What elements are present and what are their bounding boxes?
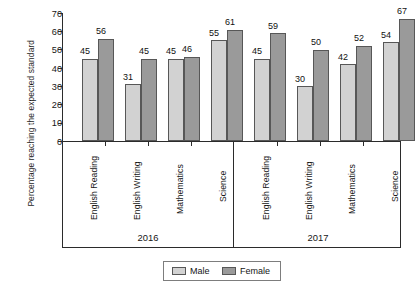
bar-2016-mathematics-male [168,59,184,141]
bar-2016-english-writing-male [125,84,141,141]
value-label-2017-science-male: 54 [373,31,399,40]
legend: Male Female [163,261,281,281]
category-label-2017-english-reading: English Reading [261,156,271,220]
bar-2016-english-reading-male [82,59,98,141]
value-label-2017-science-female: 67 [389,7,415,16]
bar-2016-science-male [211,40,227,141]
bar-2017-science-male [383,42,399,141]
bar-2016-english-reading-female [98,39,114,141]
legend-label-male: Male [190,266,210,276]
bar-2017-mathematics-female [356,46,372,141]
value-label-2017-english-writing-male: 30 [287,75,313,84]
value-label-2016-english-reading-female: 56 [88,27,114,36]
y-tick-60: 60 [36,27,62,37]
y-axis-title: Percentage reaching the expected standar… [26,18,37,228]
category-label-2016-science: Science [218,171,228,202]
legend-swatch-female-icon [222,267,236,275]
category-label-2017-english-writing: English Writing [304,161,314,220]
bar-2016-science-female [227,30,243,142]
value-label-2016-english-writing-female: 45 [131,47,157,56]
value-label-2017-english-reading-male: 45 [244,47,270,56]
y-tick-0: 0 [36,137,62,147]
group-divider [233,142,234,247]
y-tick-40: 40 [36,64,62,74]
value-label-2017-english-writing-female: 50 [303,38,329,47]
bar-2017-english-reading-female [270,33,286,141]
legend-item-male: Male [172,266,210,276]
bar-2016-english-writing-female [141,59,157,141]
legend-swatch-male-icon [172,267,186,275]
y-axis-tick-labels: 70 60 50 40 30 20 10 0 [36,0,62,291]
category-label-2016-english-reading: English Reading [89,156,99,220]
category-tick-4 [277,142,278,146]
value-label-2016-science-female: 61 [217,18,243,27]
category-tick-1 [148,142,149,146]
category-tick-0 [105,142,106,146]
y-tick-70: 70 [36,9,62,19]
plot-area: 45 56 31 45 45 46 55 61 45 59 30 50 42 5… [62,13,401,141]
value-label-2016-mathematics-female: 46 [174,45,200,54]
value-label-2016-science-male: 55 [201,29,227,38]
y-tick-50: 50 [36,45,62,55]
category-tick-5 [320,142,321,146]
category-label-2017-science: Science [390,171,400,202]
y-tick-20: 20 [36,100,62,110]
category-axis-band: English Reading English Writing Mathemat… [62,142,401,248]
legend-label-female: Female [240,266,270,276]
value-label-2017-english-reading-female: 59 [260,22,286,31]
bar-2017-english-reading-male [254,59,270,141]
y-tick-30: 30 [36,82,62,92]
bar-2017-mathematics-male [340,64,356,141]
bar-2017-english-writing-female [313,50,329,141]
value-label-2017-mathematics-female: 52 [346,34,372,43]
value-label-2016-english-reading-male: 45 [72,47,98,56]
group-label-2017: 2017 [258,232,378,243]
category-label-2016-english-writing: English Writing [132,161,142,220]
bar-2017-english-writing-male [297,86,313,141]
bar-2017-science-female [399,19,415,142]
bar-2016-mathematics-female [184,57,200,141]
legend-item-female: Female [222,266,270,276]
value-label-2016-english-writing-male: 31 [115,73,141,82]
category-label-2017-mathematics: Mathematics [347,164,357,214]
group-label-2016: 2016 [88,232,208,243]
value-label-2017-mathematics-male: 42 [330,53,356,62]
category-tick-2 [191,142,192,146]
category-label-2016-mathematics: Mathematics [175,164,185,214]
category-tick-6 [363,142,364,146]
